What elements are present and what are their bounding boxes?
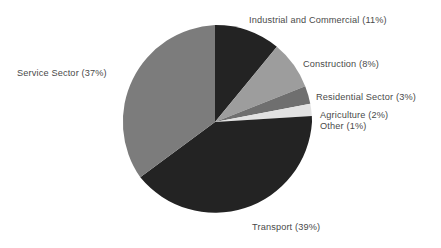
pie-label-construction: Construction (8%) [303, 59, 379, 70]
pie-label-industrial-and-commercial: Industrial and Commercial (11%) [249, 15, 387, 26]
pie-label-transport: Transport (39%) [252, 222, 320, 233]
pie-label-service-sector: Service Sector (37%) [17, 68, 107, 79]
pie-label-agriculture: Agriculture (2%) [320, 110, 388, 121]
pie-label-other: Other (1%) [320, 121, 366, 132]
pie-chart-figure: Industrial and Commercial (11%) Construc… [0, 0, 441, 248]
pie-label-residential-sector: Residential Sector (3%) [316, 92, 416, 103]
pie-chart-graphic [0, 0, 441, 248]
